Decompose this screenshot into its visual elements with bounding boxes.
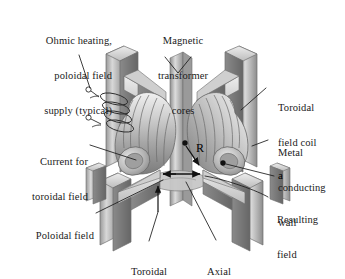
label-major-radius-R: R xyxy=(196,143,204,154)
plasma-axis-dot xyxy=(182,140,187,145)
label-axial-current-line1: Axial xyxy=(190,266,248,278)
label-poloidal-field: Poloidal field xyxy=(4,207,94,265)
label-ohmic-heating-line3: supply (typical) xyxy=(4,105,112,117)
label-ohmic-heating: Ohmic heating, poloidal field supply (ty… xyxy=(4,12,112,140)
tokamak-diagram-figure: Ohmic heating, poloidal field supply (ty… xyxy=(0,0,345,279)
label-poloidal-field-line1: Poloidal field xyxy=(4,230,94,242)
label-toroidal-field-line1: Toroidal xyxy=(118,266,180,278)
label-magnetic-transformer-cores: Magnetic transformer cores xyxy=(139,12,227,140)
leader-toroidal-field xyxy=(149,212,158,241)
label-toroidal-field-coil-line1: Toroidal xyxy=(278,102,344,114)
label-metal-conducting-wall-line1: Metal xyxy=(278,147,344,159)
label-magnetic-cores-line1: Magnetic xyxy=(139,35,227,47)
label-ohmic-heating-line1: Ohmic heating, xyxy=(4,35,112,47)
label-current-toroidal-line2: toroidal field xyxy=(4,191,88,203)
label-toroidal-field: Toroidal field xyxy=(118,243,180,279)
label-minor-radius-a: a xyxy=(278,170,283,181)
label-magnetic-cores-line3: cores xyxy=(139,105,227,117)
label-current-toroidal-line1: Current for xyxy=(4,156,88,168)
label-resulting-field-line2: field xyxy=(277,249,345,261)
label-resulting-field: Resulting field xyxy=(277,191,345,279)
minor-radius-dot xyxy=(220,160,225,165)
label-resulting-field-line1: Resulting xyxy=(277,214,345,226)
transformer-core-lower-right xyxy=(203,170,263,251)
label-magnetic-cores-line2: transformer xyxy=(139,70,227,82)
label-axial-current: Axial current xyxy=(190,243,248,279)
label-ohmic-heating-line2: poloidal field xyxy=(4,70,112,82)
transformer-core-lower-left xyxy=(100,170,160,251)
